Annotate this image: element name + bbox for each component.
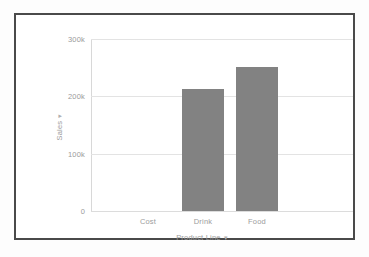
bar-food[interactable]: [236, 67, 278, 211]
y-axis-title-label: Sales: [55, 120, 64, 140]
x-axis-title-label: Product Line: [176, 233, 221, 242]
y-axis-line: [91, 39, 92, 211]
chevron-down-icon[interactable]: ▾: [224, 234, 228, 241]
gridline-300k: 300k: [91, 39, 353, 40]
x-axis-title[interactable]: Product Line▾: [176, 233, 228, 242]
x-tick-label-drink: Drink: [194, 217, 213, 226]
x-tick-label-food: Food: [248, 217, 266, 226]
y-tick-label-0: 0: [81, 207, 85, 216]
chart-frame: 300k 200k 100k 0 Cost Drink Food Product…: [14, 13, 355, 240]
x-tick-label-cost: Cost: [140, 217, 156, 226]
plot-area: 300k 200k 100k 0 Cost Drink Food Product…: [91, 39, 353, 211]
gridline-0: 0: [91, 211, 353, 212]
y-axis-title[interactable]: Sales▾: [55, 113, 64, 140]
chevron-down-icon[interactable]: ▾: [56, 113, 63, 117]
y-tick-label-200k: 200k: [68, 92, 85, 101]
y-tick-label-100k: 100k: [68, 149, 85, 158]
y-tick-label-300k: 300k: [68, 35, 85, 44]
chart-screenshot: 300k 200k 100k 0 Cost Drink Food Product…: [0, 0, 369, 257]
bar-drink[interactable]: [182, 89, 224, 211]
